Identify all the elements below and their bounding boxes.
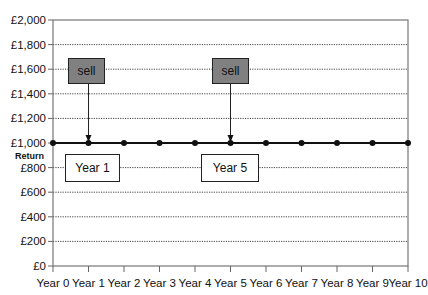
data-point — [370, 140, 376, 146]
x-tick-label: Year 5 — [214, 277, 247, 289]
y-tick-label: £2,000 — [0, 14, 46, 26]
sell-annotation-year1: sell — [68, 58, 105, 84]
y-tick-label: £1,800 — [0, 39, 46, 51]
y-tick-label: £1,000 — [0, 137, 46, 149]
y-tick-label: £400 — [0, 211, 46, 223]
y-tick-label: £600 — [0, 186, 46, 198]
x-tick-label: Year 4 — [179, 277, 212, 289]
chart-plot — [0, 0, 428, 295]
year1-annotation: Year 1 — [65, 154, 120, 182]
y-tick-label: £1,400 — [0, 88, 46, 100]
y-tick-label: £200 — [0, 235, 46, 247]
x-tick-label: Year 3 — [143, 277, 176, 289]
x-tick-label: Year 6 — [250, 277, 283, 289]
data-point — [192, 140, 198, 146]
y-tick-label: £800 — [0, 162, 46, 174]
data-point — [157, 140, 163, 146]
x-tick-label: Year 2 — [108, 277, 141, 289]
x-tick-label: Year 1 — [72, 277, 105, 289]
y-tick-label: £1,600 — [0, 63, 46, 75]
x-tick-label: Year 7 — [285, 277, 318, 289]
x-tick-label: Year 8 — [321, 277, 354, 289]
data-point — [263, 140, 269, 146]
sell-annotation-year5: sell — [212, 58, 249, 84]
data-point — [334, 140, 340, 146]
data-point — [50, 140, 56, 146]
year5-annotation: Year 5 — [201, 154, 259, 182]
y-axis-title: Return — [0, 151, 44, 161]
data-point — [405, 140, 411, 146]
x-tick-label: Year 10 — [388, 277, 427, 289]
data-point — [121, 140, 127, 146]
y-tick-label: £0 — [0, 260, 46, 272]
y-tick-label: £1,200 — [0, 112, 46, 124]
x-tick-label: Year 0 — [37, 277, 70, 289]
data-point — [299, 140, 305, 146]
x-tick-label: Year 9 — [356, 277, 389, 289]
